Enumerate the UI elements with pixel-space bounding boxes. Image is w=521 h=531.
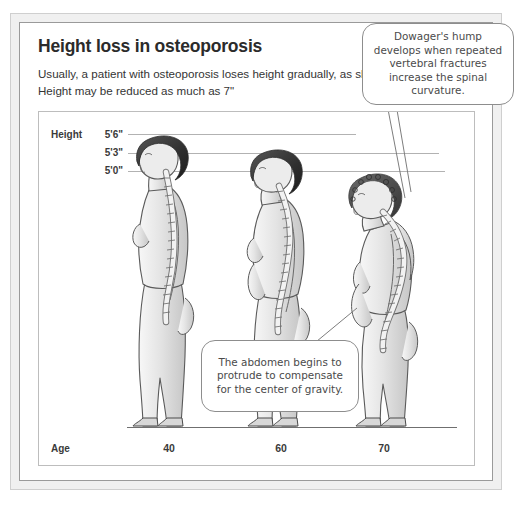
callout-dowagers-hump-text: Dowager's hump develops when repeated ve…: [363, 30, 513, 98]
height-tick-label-1: 5'3": [89, 147, 123, 158]
height-guide-line-0: [128, 134, 356, 135]
callout-dowagers-hump: Dowager's hump develops when repeated ve…: [362, 23, 514, 105]
x-axis-title: Age: [51, 443, 70, 454]
height-guide-line-2: [128, 171, 445, 172]
callout-abdomen: The abdomen begins to protrude to compen…: [201, 340, 359, 412]
height-guide-line-1: [128, 153, 439, 154]
age-tick-label-1: 60: [261, 442, 301, 454]
figure-woman-age-70: [349, 174, 418, 426]
height-tick-label-2: 5'0": [89, 165, 123, 176]
chart-panel: Height Age 5'6" 5'3" 5'0": [38, 111, 475, 466]
illustration-root: Height loss in osteoporosis Usually, a p…: [0, 0, 521, 531]
height-tick-label-0: 5'6": [89, 129, 123, 140]
age-tick-label-2: 70: [364, 442, 404, 454]
page-title: Height loss in osteoporosis: [38, 36, 262, 57]
ground-line: [127, 427, 457, 428]
figure-woman-age-40: [133, 136, 194, 426]
callout-abdomen-text: The abdomen begins to protrude to compen…: [202, 356, 358, 397]
leader-line-dowagers-hump: [387, 112, 411, 198]
age-tick-label-0: 40: [149, 442, 189, 454]
y-axis-title: Height: [51, 129, 82, 140]
